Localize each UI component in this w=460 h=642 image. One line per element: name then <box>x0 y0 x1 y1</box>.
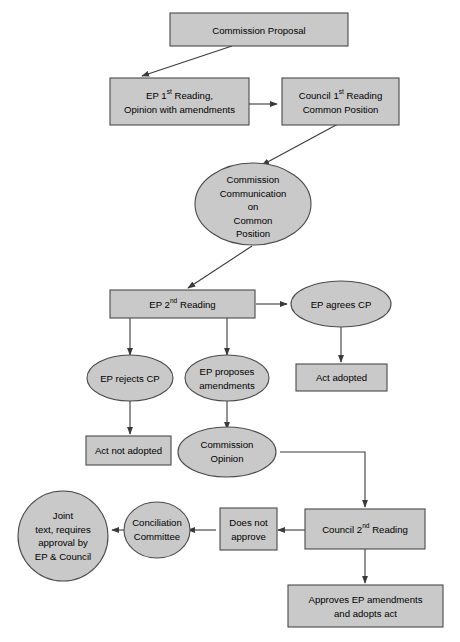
label-conciliation-l2: Committee <box>134 531 180 542</box>
label-act-not-adopted: Act not adopted <box>95 445 162 456</box>
label-does-not-approve-l2: approve <box>231 531 266 542</box>
label-joint-text-l1: Joint <box>53 510 74 521</box>
svg-text:Conciliation: Conciliation <box>132 517 182 528</box>
label-ep-first-reading-pre: EP 1 <box>146 90 167 101</box>
label-joint-text-l4: EP & Council <box>35 550 91 561</box>
label-council-second-reading-post: Reading <box>369 523 407 534</box>
svg-text:Common: Common <box>234 214 273 225</box>
label-act-adopted: Act adopted <box>316 372 367 383</box>
label-commission-opinion-l1: Commission <box>201 439 254 450</box>
node-approves-ep-amendments[interactable]: Approves EP amendments and adopts act <box>288 585 443 627</box>
svg-text:EP 1st Reading,: EP 1st Reading, <box>146 88 213 100</box>
svg-text:text, requires: text, requires <box>35 523 91 534</box>
label-council-first-reading-pre: Council 1 <box>299 90 339 101</box>
svg-text:Joint: Joint <box>53 510 74 521</box>
node-ep-agrees-cp[interactable]: EP agrees CP <box>291 281 391 327</box>
svg-text:Opinion: Opinion <box>210 453 243 464</box>
edge-proposal-to-ep1 <box>142 46 232 76</box>
label-comm-comm-l2: Communication <box>220 187 287 198</box>
label-joint-text-l3: approval by <box>38 537 88 548</box>
node-act-adopted[interactable]: Act adopted <box>296 364 387 391</box>
label-commission-opinion-l2: Opinion <box>210 453 243 464</box>
node-does-not-approve[interactable]: Does not approve <box>220 508 277 550</box>
svg-text:Does not: Does not <box>229 517 268 528</box>
svg-text:Opinion with amendments: Opinion with amendments <box>124 104 235 115</box>
label-ep-proposes-l1: EP proposes <box>200 366 255 377</box>
node-act-not-adopted[interactable]: Act not adopted <box>86 436 171 465</box>
node-council-second-reading[interactable]: Council 2nd Reading <box>305 509 425 549</box>
svg-text:EP agrees CP: EP agrees CP <box>311 299 372 310</box>
edge-council1-to-communication <box>262 124 338 165</box>
node-ep-second-reading[interactable]: EP 2nd Reading <box>110 290 255 318</box>
svg-text:Committee: Committee <box>134 531 180 542</box>
svg-text:approve: approve <box>231 531 266 542</box>
label-ep-agrees-cp: EP agrees CP <box>311 299 372 310</box>
label-approves-l2: and adopts act <box>334 608 397 619</box>
svg-text:on: on <box>248 201 259 212</box>
label-does-not-approve-l1: Does not <box>229 517 268 528</box>
label-council-first-reading-post: Reading <box>344 90 382 101</box>
node-conciliation-committee[interactable]: Conciliation Committee <box>124 502 190 558</box>
svg-text:approval by: approval by <box>38 537 88 548</box>
label-ep-second-reading-post: Reading <box>177 298 215 309</box>
svg-text:Communication: Communication <box>220 187 287 198</box>
label-joint-text-l2: text, requires <box>35 523 91 534</box>
node-commission-opinion[interactable]: Commission Opinion <box>178 427 276 477</box>
svg-text:Act adopted: Act adopted <box>316 372 367 383</box>
svg-text:Commission Proposal: Commission Proposal <box>212 24 305 35</box>
node-ep-first-reading[interactable]: EP 1st Reading, Opinion with amendments <box>110 78 249 125</box>
svg-text:Common Position: Common Position <box>303 104 379 115</box>
label-ep-second-reading-pre: EP 2 <box>149 298 170 309</box>
label-approves-l1: Approves EP amendments <box>309 594 423 605</box>
edge-opinion-to-council2 <box>280 452 365 507</box>
label-comm-comm-l3: on <box>248 201 259 212</box>
label-conciliation-l1: Conciliation <box>132 517 182 528</box>
node-commission-proposal[interactable]: Commission Proposal <box>170 13 348 46</box>
svg-text:Approves EP amendments: Approves EP amendments <box>309 594 423 605</box>
edge-communication-to-ep2 <box>188 246 252 288</box>
node-ep-rejects-cp[interactable]: EP rejects CP <box>87 355 173 401</box>
svg-text:Act not adopted: Act not adopted <box>95 445 162 456</box>
label-commission-proposal: Commission Proposal <box>212 24 305 35</box>
node-joint-text[interactable]: Joint text, requires approval by EP & Co… <box>18 491 108 581</box>
node-council-first-reading[interactable]: Council 1st Reading Common Position <box>282 78 399 125</box>
svg-text:EP & Council: EP & Council <box>35 550 91 561</box>
svg-text:Commission: Commission <box>201 439 254 450</box>
label-comm-comm-l5: Position <box>236 228 270 239</box>
label-ep-first-reading-line2: Opinion with amendments <box>124 104 235 115</box>
svg-text:and adopts act: and adopts act <box>334 608 397 619</box>
flowchart-diagram: Commission Proposal EP 1st Reading, Opin… <box>0 0 460 642</box>
node-commission-communication[interactable]: Commission Communication on Common Posit… <box>195 163 311 245</box>
svg-text:Commission: Commission <box>227 174 280 185</box>
svg-text:EP proposes: EP proposes <box>200 366 255 377</box>
label-comm-comm-l4: Common <box>234 214 273 225</box>
label-council-second-reading-pre: Council 2 <box>322 523 362 534</box>
flowchart-canvas: Commission Proposal EP 1st Reading, Opin… <box>0 0 460 642</box>
svg-text:EP rejects CP: EP rejects CP <box>100 373 160 384</box>
svg-text:amendments: amendments <box>199 380 255 391</box>
node-ep-proposes-amendments[interactable]: EP proposes amendments <box>185 355 269 401</box>
label-ep-first-reading-post: Reading, <box>172 90 213 101</box>
svg-text:Position: Position <box>236 228 270 239</box>
svg-text:EP 2nd Reading: EP 2nd Reading <box>149 297 215 309</box>
label-ep-rejects-cp: EP rejects CP <box>100 373 160 384</box>
label-comm-comm-l1: Commission <box>227 174 280 185</box>
label-ep-proposes-l2: amendments <box>199 380 255 391</box>
label-council-first-reading-line2: Common Position <box>303 104 379 115</box>
